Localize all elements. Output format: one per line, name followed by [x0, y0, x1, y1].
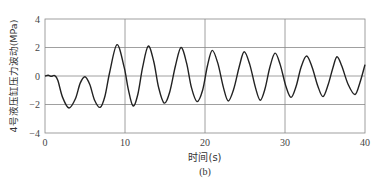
y-axis-tick-labels: 420−2−4: [29, 14, 40, 139]
y-tick-label: 2: [35, 42, 40, 53]
x-tick-label: 0: [43, 137, 48, 148]
y-tick-label: 4: [35, 14, 40, 25]
y-tick-label: 0: [35, 71, 40, 82]
x-axis-label: 时间(s): [188, 151, 221, 163]
line-chart: 010203040 420−2−4 时间(s) (b) 4号液压缸压力波动(MP…: [0, 0, 382, 184]
x-tick-label: 20: [200, 137, 210, 148]
x-tick-label: 30: [280, 137, 290, 148]
x-axis-tick-labels: 010203040: [43, 137, 371, 148]
x-tick-label: 40: [360, 137, 370, 148]
figure-subtitle: (b): [199, 166, 211, 178]
y-tick-label: −2: [29, 99, 40, 110]
y-tick-label: −4: [29, 128, 40, 139]
y-axis-label: 4号液压缸压力波动(MPa): [8, 20, 19, 133]
x-tick-label: 10: [120, 137, 130, 148]
